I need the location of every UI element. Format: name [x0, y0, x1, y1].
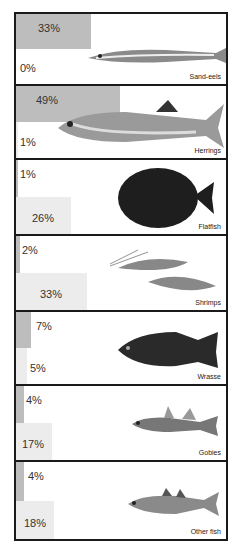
other-fish-icon: [126, 486, 221, 522]
pct-bottom: 18%: [24, 517, 46, 529]
pct-top: 7%: [36, 320, 52, 332]
sand-eel-icon: [86, 42, 226, 70]
pct-bottom: 0%: [20, 62, 36, 74]
bar-bottom: [16, 348, 27, 384]
panel-other-fish: 4% 18% Other fish: [16, 462, 226, 539]
wrasse-icon: [116, 322, 221, 376]
pct-bottom: 26%: [32, 212, 54, 224]
panel-gobies: 4% 17% Gobies: [16, 386, 226, 462]
category-label: Herrings: [195, 147, 221, 154]
bar-top: [16, 236, 20, 273]
category-label: Flatfish: [198, 223, 221, 230]
panel-sand-eels: 33% 0% Sand-eels: [16, 14, 226, 86]
pct-bottom: 33%: [40, 288, 62, 300]
bar-top: [16, 160, 18, 197]
category-label: Other fish: [191, 528, 221, 535]
category-label: Gobies: [199, 449, 221, 456]
pct-top: 4%: [26, 394, 42, 406]
panel-herrings: 49% 1% Herrings: [16, 86, 226, 160]
bar-top: [16, 386, 24, 423]
pct-top: 4%: [28, 470, 44, 482]
panel-wrasse: 7% 5% Wrasse: [16, 312, 226, 386]
pct-top: 33%: [38, 22, 60, 34]
panel-flatfish: 1% 26% Flatfish: [16, 160, 226, 236]
bar-bottom: [16, 122, 18, 158]
category-label: Sand-eels: [189, 73, 221, 80]
shrimp-icon: [108, 246, 218, 301]
pct-top: 49%: [36, 94, 58, 106]
panel-shrimps: 2% 33% Shrimps: [16, 236, 226, 312]
pct-top: 1%: [20, 168, 36, 180]
category-label: Wrasse: [197, 373, 221, 380]
pct-bottom: 17%: [22, 438, 44, 450]
pct-top: 2%: [22, 244, 38, 256]
bar-top: [16, 312, 31, 348]
pct-bottom: 1%: [20, 136, 36, 148]
bar-top: [16, 462, 24, 501]
pct-bottom: 5%: [30, 362, 46, 374]
goby-icon: [130, 404, 220, 444]
chart-frame: 33% 0% Sand-eels 49% 1% Herrings 1% 26%: [14, 12, 228, 541]
category-label: Shrimps: [195, 299, 221, 306]
